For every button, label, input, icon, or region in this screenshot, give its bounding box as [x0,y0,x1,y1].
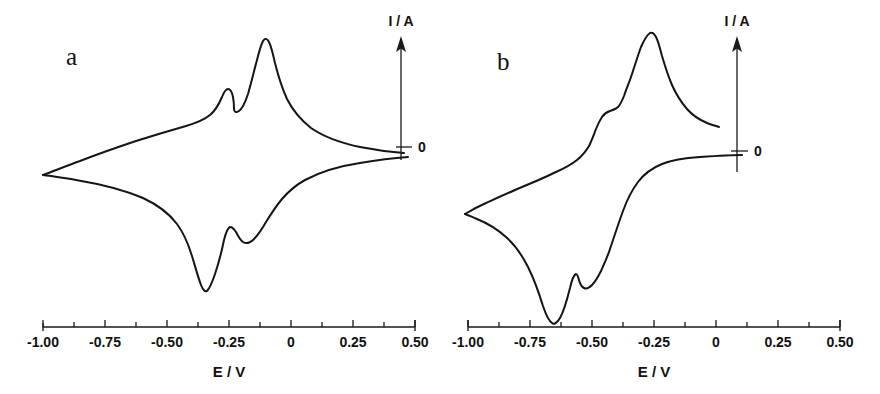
panel-b-xtick-label-0: -1.00 [452,334,484,350]
panel-b-letter: b [497,48,510,75]
panel-b-y-axis-title: I / A [724,13,749,29]
panel-a-xtick-label-4: 0 [287,334,295,350]
panel-a-cathodic-curve [43,157,408,291]
panel-b-cathodic-curve [465,155,742,324]
panel-b-x-ticks [468,320,840,327]
panel-a-x-axis-title: E / V [213,363,246,380]
panel-a-letter: a [66,43,77,70]
panel-a-xtick-label-3: -0.25 [213,334,245,350]
panel-a-zero-label: 0 [418,139,426,155]
panel-a-xtick-label-5: 0.25 [339,334,366,350]
panel-b-xtick-label-6: 0.50 [826,334,853,350]
panel-b-xtick-label-3: -0.25 [638,334,670,350]
panel-b-y-axis [731,36,748,172]
cv-figure: a -1.00 -0.75 -0.50 -0.25 0 0.25 0.50 [0,0,880,394]
panel-b-xtick-label-1: -0.75 [514,334,546,350]
panel-b-x-axis-title: E / V [638,363,671,380]
panel-a-anodic-curve [43,39,404,175]
panel-a-y-axis [396,36,412,160]
panel-a-y-axis-title: I / A [388,13,413,29]
panel-b-xtick-label-4: 0 [712,334,720,350]
panel-b-zero-label: 0 [754,143,762,159]
panel-a-xtick-label-1: -0.75 [89,334,121,350]
panel-a-xtick-label-0: -1.00 [27,334,59,350]
panel-b-xtick-label-5: 0.25 [764,334,791,350]
panel-b-xtick-label-2: -0.50 [576,334,608,350]
panel-b: b -1.00 -0.75 -0.50 -0.25 0 0.25 0.50 [452,13,854,380]
panel-a: a -1.00 -0.75 -0.50 -0.25 0 0.25 0.50 [27,13,429,380]
panel-a-xtick-label-6: 0.50 [401,334,428,350]
panel-a-xtick-label-2: -0.50 [151,334,183,350]
panel-a-x-ticks [43,320,415,327]
